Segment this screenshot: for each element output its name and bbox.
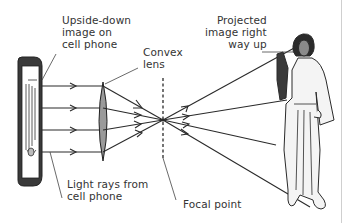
cell-phone-icon bbox=[18, 57, 42, 186]
label-focal-point: Focal point bbox=[183, 198, 241, 210]
label-convex-lens: Convex lens bbox=[143, 46, 183, 70]
focal-point-marker bbox=[161, 118, 164, 121]
incoming-rays bbox=[42, 83, 103, 155]
label-upside-down-image: Upside-down image on cell phone bbox=[62, 14, 131, 50]
projector-diagram bbox=[0, 0, 343, 223]
label-light-rays: Light rays from cell phone bbox=[67, 178, 148, 202]
right-border bbox=[341, 0, 342, 223]
projected-figure-icon bbox=[277, 34, 334, 209]
convex-lens-icon bbox=[99, 82, 107, 161]
label-projected-image: Projected image right way up bbox=[205, 14, 267, 50]
